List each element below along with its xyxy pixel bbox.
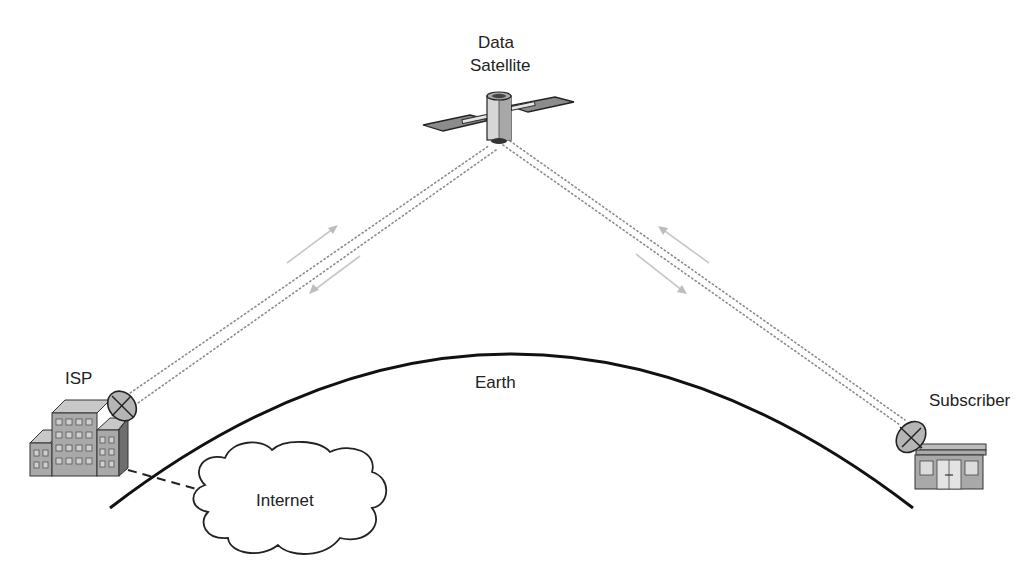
isp-label: ISP bbox=[65, 369, 92, 388]
house-icon bbox=[915, 444, 986, 489]
arrow-down-icon bbox=[677, 285, 687, 294]
link-isp-satellite bbox=[120, 145, 496, 410]
arrow-down-icon bbox=[309, 284, 319, 294]
satellite-diagram: Earth Internet ISP bbox=[0, 0, 1018, 565]
arrow-up-icon bbox=[328, 225, 338, 234]
satellite-label-line2: Satellite bbox=[470, 56, 530, 75]
earth-label: Earth bbox=[475, 373, 516, 392]
satellite-node: Data Satellite bbox=[423, 33, 574, 144]
isp-node: ISP bbox=[30, 369, 142, 476]
internet-label: Internet bbox=[256, 491, 314, 510]
subscriber-node: Subscriber bbox=[890, 391, 1010, 489]
internet-cloud: Internet bbox=[193, 442, 386, 554]
satellite-label-line1: Data bbox=[478, 33, 514, 52]
satellite-icon bbox=[423, 92, 574, 144]
arrow-up-icon bbox=[658, 226, 668, 235]
subscriber-label: Subscriber bbox=[929, 391, 1011, 410]
link-satellite-subscriber bbox=[503, 141, 905, 425]
